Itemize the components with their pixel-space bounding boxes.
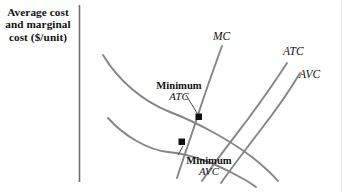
y-axis-title-line-2: and marginal (5, 18, 71, 30)
annotation-minimum-atc-line-2: ATC (146, 91, 212, 102)
annotation-minimum-avc: Minimum AVC (176, 155, 242, 178)
cost-curves-figure: Average cost and marginal cost ($/unit) … (0, 0, 356, 194)
marker-min-avc (179, 139, 186, 146)
y-axis-title: Average cost and marginal cost ($/unit) (2, 6, 74, 43)
curve-label-mc: MC (213, 30, 230, 42)
y-axis-title-line-3: cost ($/unit) (9, 31, 67, 43)
curve-label-avc: AVC (299, 68, 320, 80)
marker-min-atc (196, 114, 203, 121)
y-axis-title-line-1: Average cost (7, 6, 69, 18)
annotation-minimum-avc-line-2: AVC (176, 166, 242, 177)
annotation-minimum-atc: Minimum ATC (146, 80, 212, 103)
curve-label-atc: ATC (283, 45, 304, 57)
